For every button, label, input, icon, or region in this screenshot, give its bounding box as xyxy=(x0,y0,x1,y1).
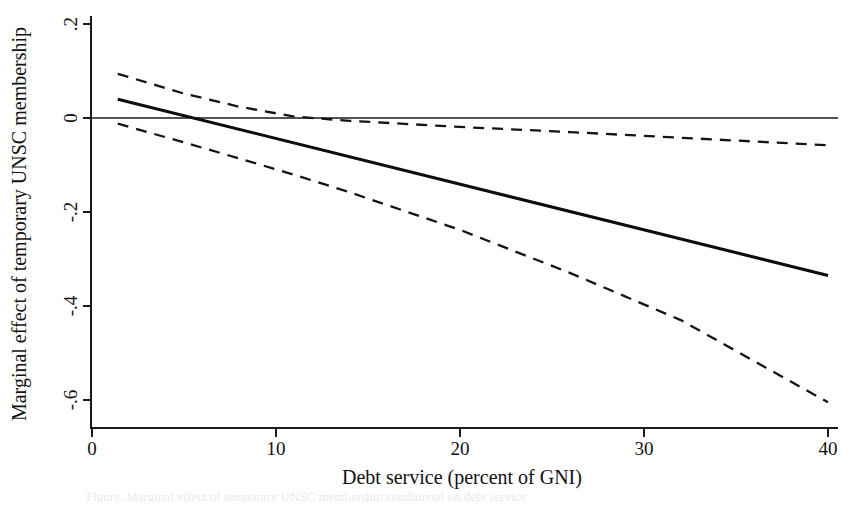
marginal-effect-line xyxy=(118,99,828,275)
x-axis-title: Debt service (percent of GNI) xyxy=(342,466,582,489)
figure-container: .2 0 -.2 -.4 -.6 0 10 20 30 40 Marginal … xyxy=(0,0,868,505)
y-axis-tick-labels: .2 0 -.2 -.4 -.6 xyxy=(60,17,81,410)
x-axis-ticks xyxy=(92,428,828,437)
x-tick-label: 20 xyxy=(451,438,470,459)
figure-caption-fragment: Figure. Marginal effect of temporary UNS… xyxy=(86,489,786,502)
y-tick-label: 0 xyxy=(60,113,81,123)
x-axis-tick-labels: 0 10 20 30 40 xyxy=(87,438,837,459)
y-tick-label: -.2 xyxy=(60,202,81,223)
y-tick-label: .2 xyxy=(60,17,81,31)
x-tick-label: 30 xyxy=(635,438,654,459)
plot-axes xyxy=(91,16,838,428)
marginal-effect-chart: .2 0 -.2 -.4 -.6 0 10 20 30 40 Marginal … xyxy=(0,0,868,505)
y-tick-label: -.6 xyxy=(60,390,81,411)
y-tick-label: -.4 xyxy=(60,295,81,316)
y-axis-ticks xyxy=(83,24,91,400)
lower-confidence-bound-line xyxy=(118,124,828,403)
y-axis-title: Marginal effect of temporary UNSC member… xyxy=(8,27,31,421)
x-tick-label: 10 xyxy=(267,438,286,459)
series-group xyxy=(118,74,828,403)
upper-confidence-bound-line xyxy=(118,74,828,145)
x-tick-label: 40 xyxy=(819,438,838,459)
x-tick-label: 0 xyxy=(87,438,97,459)
